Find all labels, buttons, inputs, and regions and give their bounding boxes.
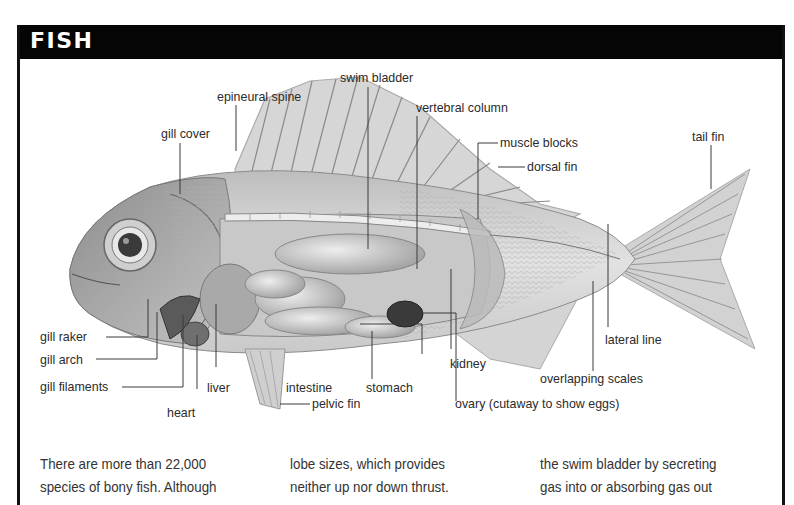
label-gill-cover: gill cover	[161, 126, 210, 142]
body-text-line: species of bony fish. Although	[40, 476, 217, 499]
label-intestine: intestine	[286, 380, 332, 396]
label-lateral-line: lateral line	[605, 332, 662, 348]
body-text-line: gas into or absorbing gas out	[540, 476, 716, 499]
label-stomach: stomach	[366, 380, 413, 396]
label-swim-bladder: swim bladder	[340, 70, 413, 86]
label-liver: liver	[207, 380, 230, 396]
body-text-column-3: the swim bladder by secreting gas into o…	[540, 453, 716, 499]
body-text-line: neither up nor down thrust.	[290, 476, 449, 499]
title-bar: FISH	[20, 25, 782, 59]
label-muscle-blocks: muscle blocks	[500, 135, 578, 151]
label-kidney: kidney	[450, 356, 486, 372]
label-gill-arch: gill arch	[40, 352, 83, 368]
label-vertebral-column: vertebral column	[416, 100, 508, 116]
label-tail-fin: tail fin	[692, 129, 724, 145]
body-text-line: There are more than 22,000	[40, 453, 217, 476]
ovary	[387, 301, 423, 327]
label-ovary: ovary (cutaway to show eggs)	[455, 396, 619, 412]
label-overlapping-scales: overlapping scales	[540, 371, 643, 387]
panel-title: FISH	[30, 28, 93, 53]
tail-fin	[620, 169, 755, 349]
fish-eye	[104, 219, 156, 271]
body-text-column-2: lobe sizes, which provides neither up no…	[290, 453, 449, 499]
fish-panel: FISH	[17, 25, 785, 505]
label-pelvic-fin: pelvic fin	[312, 396, 360, 412]
label-epineural-spine: epineural spine	[217, 89, 301, 105]
liver	[200, 264, 260, 334]
swim-bladder	[275, 234, 425, 274]
body-text-line: lobe sizes, which provides	[290, 453, 449, 476]
label-gill-raker: gill raker	[40, 329, 87, 345]
pelvic-fin	[245, 349, 285, 409]
label-heart: heart	[167, 405, 195, 421]
label-gill-filaments: gill filaments	[40, 379, 108, 395]
body-text-line: the swim bladder by secreting	[540, 453, 716, 476]
body-text-column-1: There are more than 22,000 species of bo…	[40, 453, 217, 499]
label-dorsal-fin: dorsal fin	[527, 159, 577, 175]
fish-anatomy-diagram: epineural spine gill cover swim bladder …	[20, 59, 782, 439]
